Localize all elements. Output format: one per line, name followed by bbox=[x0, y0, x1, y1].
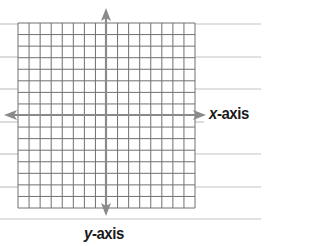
x-axis-variable: x bbox=[209, 104, 217, 123]
x-axis-suffix: -axis bbox=[217, 104, 249, 123]
y-axis-suffix: -axis bbox=[92, 224, 124, 243]
y-axis-label: y-axis bbox=[84, 224, 124, 244]
x-axis-label: x-axis bbox=[209, 104, 249, 124]
y-axis-variable: y bbox=[84, 224, 92, 243]
